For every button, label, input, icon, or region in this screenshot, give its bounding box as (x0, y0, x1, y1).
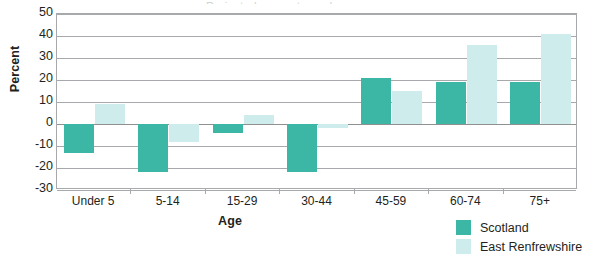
legend-label: East Renfrewshire (480, 240, 582, 254)
bar-east-renfrewshire-30-44 (318, 124, 348, 128)
x-tick-label-60-74: 60-74 (450, 194, 481, 208)
x-tick-label-15-29: 15-29 (227, 194, 258, 208)
y-tick-label--30: -30 (13, 181, 53, 195)
bar-chart: Projected percentage change Percent 5040… (0, 0, 606, 266)
x-tick-label-75-: 75+ (530, 194, 550, 208)
bar-scotland-60-74 (436, 82, 466, 124)
legend-swatch-icon (456, 220, 471, 235)
bar-east-renfrewshire-5-14 (169, 124, 199, 142)
bar-east-renfrewshire-45-59 (392, 91, 422, 124)
bar-east-renfrewshire-75- (541, 34, 571, 124)
legend-item-east-renfrewshire[interactable]: East Renfrewshire (456, 237, 582, 256)
y-tick-label-0: 0 (13, 115, 53, 129)
x-tick-6 (503, 189, 504, 194)
x-tick-5 (428, 189, 429, 194)
y-tick-label-10: 10 (13, 93, 53, 107)
x-tick-2 (205, 189, 206, 194)
gridline--30 (57, 190, 576, 191)
x-tick-label-under-5: Under 5 (72, 194, 115, 208)
bar-scotland-under-5 (64, 124, 94, 153)
x-tick-label-45-59: 45-59 (376, 194, 407, 208)
x-tick-4 (354, 189, 355, 194)
plot-area (56, 13, 577, 189)
y-tick-label--20: -20 (13, 159, 53, 173)
x-axis-title: Age (0, 214, 460, 228)
x-tick-3 (279, 189, 280, 194)
bar-east-renfrewshire-15-29 (244, 115, 274, 124)
x-tick-1 (130, 189, 131, 194)
y-tick-label-40: 40 (13, 27, 53, 41)
bar-east-renfrewshire-under-5 (95, 104, 125, 124)
y-tick-label--10: -10 (13, 137, 53, 151)
y-tick-label-50: 50 (13, 5, 53, 19)
cropped-title-remnant: Projected percentage change (206, 0, 426, 4)
legend-swatch-icon (456, 239, 471, 254)
legend: ScotlandEast Renfrewshire (456, 218, 582, 256)
y-tick-label-30: 30 (13, 49, 53, 63)
y-tick-label-20: 20 (13, 71, 53, 85)
bar-scotland-5-14 (138, 124, 168, 172)
legend-label: Scotland (480, 221, 529, 235)
bar-scotland-45-59 (361, 78, 391, 124)
bar-scotland-15-29 (213, 124, 243, 133)
bar-scotland-30-44 (287, 124, 317, 172)
bar-east-renfrewshire-60-74 (467, 45, 497, 124)
x-tick-label-30-44: 30-44 (301, 194, 332, 208)
x-tick-label-5-14: 5-14 (156, 194, 180, 208)
bar-scotland-75- (510, 82, 540, 124)
legend-item-scotland[interactable]: Scotland (456, 218, 582, 237)
bars-layer (57, 14, 576, 188)
